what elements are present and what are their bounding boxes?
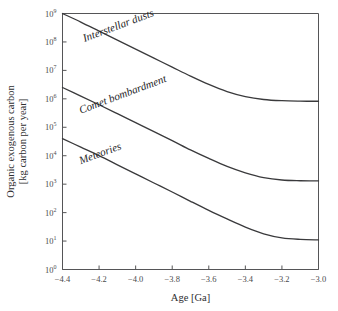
x-axis-title: Age [Ga] <box>171 292 210 303</box>
y-tick-label: 101 <box>45 235 57 246</box>
x-tick-label: −4.0 <box>128 274 143 284</box>
x-tick-label: −3.0 <box>311 274 326 284</box>
y-axis-title-line2: [kg carbon per year] <box>17 99 28 184</box>
x-tick-label: −4.2 <box>91 274 106 284</box>
y-axis-title-line1: Organic exogenous carbon <box>5 85 16 198</box>
x-tick-label: −3.6 <box>201 274 216 284</box>
curve-annotation: Comet bombardment <box>77 72 168 116</box>
chart-canvas: 100101102103104105106107108109−4.4−4.2−4… <box>0 0 338 311</box>
chart-figure: 100101102103104105106107108109−4.4−4.2−4… <box>0 0 338 311</box>
curve-annotation: Interstellar dusts <box>80 6 155 44</box>
y-tick-label: 104 <box>45 150 57 161</box>
y-tick-label: 102 <box>45 207 57 218</box>
x-tick-label: −4.4 <box>55 274 71 284</box>
curve-annotation: Meteories <box>76 140 122 167</box>
x-tick-label: −3.4 <box>238 274 254 284</box>
y-tick-label: 105 <box>45 121 57 132</box>
y-tick-label: 107 <box>45 64 57 75</box>
y-tick-label: 109 <box>45 8 57 19</box>
x-tick-label: −3.2 <box>274 274 289 284</box>
y-tick-label: 106 <box>45 93 57 104</box>
y-tick-label: 103 <box>45 178 57 189</box>
x-tick-label: −3.8 <box>165 274 180 284</box>
axis-frame <box>63 14 319 270</box>
y-tick-label: 108 <box>45 36 57 47</box>
